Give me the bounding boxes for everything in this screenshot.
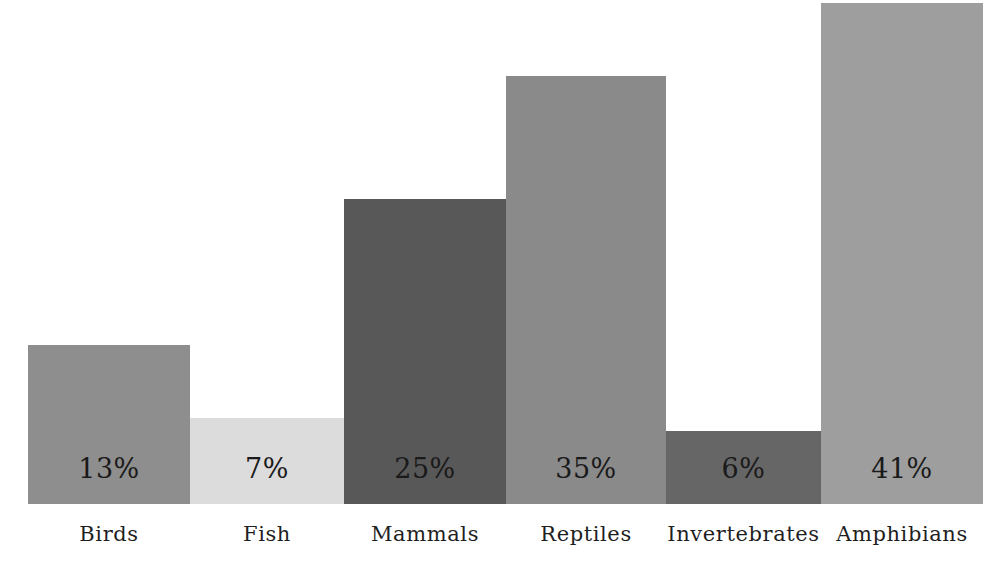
bar-group-invertebrates: 6% [666, 431, 821, 504]
bar-value-label-fish: 7% [190, 455, 344, 482]
category-label-fish: Fish [190, 524, 344, 545]
bar-amphibians [821, 3, 983, 504]
category-label-reptiles: Reptiles [506, 524, 666, 545]
bar-chart: 13%Birds7%Fish25%Mammals35%Reptiles6%Inv… [0, 0, 1004, 562]
plot-area: 13%Birds7%Fish25%Mammals35%Reptiles6%Inv… [0, 0, 1004, 562]
bar-value-label-birds: 13% [28, 455, 190, 482]
bar-group-amphibians: 41% [821, 3, 983, 504]
bar-reptiles [506, 76, 666, 504]
bar-value-label-invertebrates: 6% [666, 455, 821, 482]
bar-value-label-reptiles: 35% [506, 455, 666, 482]
bar-group-birds: 13% [28, 345, 190, 504]
category-label-amphibians: Amphibians [821, 524, 983, 545]
bar-group-reptiles: 35% [506, 76, 666, 504]
category-label-mammals: Mammals [344, 524, 506, 545]
bar-group-mammals: 25% [344, 199, 506, 504]
bar-group-fish: 7% [190, 418, 344, 504]
bar-value-label-mammals: 25% [344, 455, 506, 482]
bar-value-label-amphibians: 41% [821, 455, 983, 482]
category-label-birds: Birds [28, 524, 190, 545]
category-label-invertebrates: Invertebrates [666, 524, 821, 545]
